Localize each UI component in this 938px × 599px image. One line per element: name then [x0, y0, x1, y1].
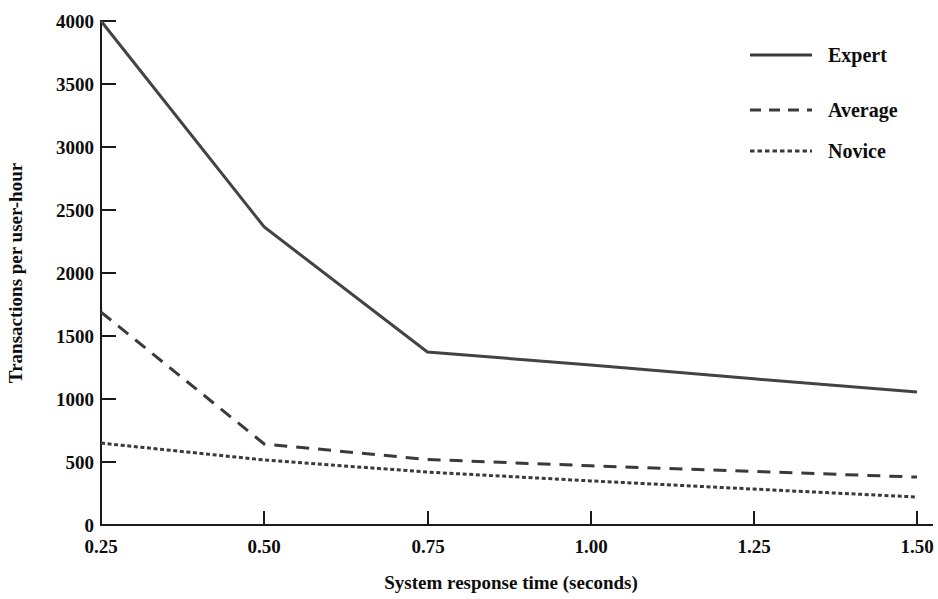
- series-line-novice: [101, 443, 917, 497]
- x-tick-label-025: 0.25: [84, 536, 117, 557]
- x-axis-tick-labels: 0.25 0.50 0.75 1.00 1.25 1.50: [84, 536, 933, 557]
- y-tick-label-500: 500: [66, 452, 95, 473]
- series-line-average: [101, 312, 917, 477]
- y-tick-label-3500: 3500: [56, 74, 94, 95]
- y-axis-tick-labels: 0 500 1000 1500 2000 2500 3000 3500 4000: [56, 11, 94, 536]
- x-tick-label-150: 1.50: [900, 536, 933, 557]
- legend-item-novice[interactable]: Novice: [750, 140, 886, 162]
- line-chart: 0 500 1000 1500 2000 2500 3000 3500 4000…: [0, 0, 938, 599]
- legend-label-expert: Expert: [828, 44, 887, 67]
- legend-item-expert[interactable]: Expert: [750, 44, 887, 67]
- y-axis-ticks: [101, 21, 116, 525]
- series-line-expert: [101, 21, 917, 392]
- y-tick-label-2000: 2000: [56, 263, 94, 284]
- chart-container: 0 500 1000 1500 2000 2500 3000 3500 4000…: [0, 0, 938, 599]
- x-axis-title: System response time (seconds): [384, 572, 638, 594]
- y-axis-title: Transactions per user-hour: [5, 162, 26, 383]
- legend-item-average[interactable]: Average: [750, 99, 898, 122]
- x-tick-label-075: 0.75: [411, 536, 444, 557]
- y-tick-label-1500: 1500: [56, 326, 94, 347]
- x-tick-label-100: 1.00: [574, 536, 607, 557]
- y-tick-label-1000: 1000: [56, 389, 94, 410]
- x-tick-label-125: 1.25: [737, 536, 770, 557]
- x-tick-label-050: 0.50: [247, 536, 280, 557]
- y-tick-label-4000: 4000: [56, 11, 94, 32]
- y-tick-label-3000: 3000: [56, 137, 94, 158]
- chart-legend: Expert Average Novice: [750, 44, 898, 162]
- y-tick-label-0: 0: [85, 515, 95, 536]
- y-tick-label-2500: 2500: [56, 200, 94, 221]
- legend-label-average: Average: [828, 99, 898, 122]
- series-group: [101, 21, 917, 497]
- legend-label-novice: Novice: [828, 140, 886, 162]
- x-axis-ticks: [101, 511, 917, 525]
